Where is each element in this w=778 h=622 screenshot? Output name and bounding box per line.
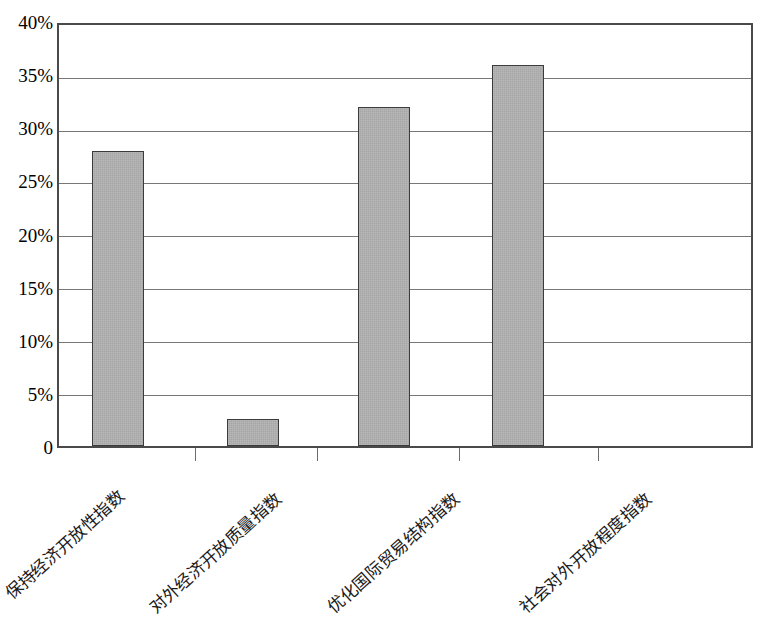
x-axis-tick-mark — [459, 448, 460, 461]
y-axis-tick-label: 30% — [1, 119, 53, 138]
plot-area — [57, 23, 753, 448]
x-axis-tick-mark — [195, 448, 196, 461]
x-axis-category-label: 优化国际贸易结构指数 — [323, 489, 463, 618]
y-axis-tick-label: 35% — [1, 66, 53, 85]
bar[interactable] — [492, 65, 544, 446]
bar[interactable] — [92, 151, 144, 446]
y-axis-tick-label: 15% — [1, 279, 53, 298]
y-axis-tick-label: 40% — [1, 13, 53, 32]
y-axis-tick-label: 25% — [1, 172, 53, 191]
y-axis-tick-label: 5% — [1, 385, 53, 404]
bar-chart: 40% 35% 30% 25% 20% 15% 10% 5% 0 保持经济开放性… — [0, 0, 778, 622]
gridline — [59, 78, 751, 79]
x-axis-category-label: 社会对外开放程度指数 — [515, 489, 655, 618]
x-axis-category-label: 对外经济开放质量指数 — [145, 489, 285, 618]
y-axis-labels: 40% 35% 30% 25% 20% 15% 10% 5% 0 — [0, 0, 53, 622]
x-axis-tick-mark — [598, 448, 599, 461]
bar[interactable] — [358, 107, 410, 446]
bar[interactable] — [227, 419, 279, 446]
y-axis-tick-label: 10% — [1, 332, 53, 351]
y-axis-tick-label: 20% — [1, 226, 53, 245]
y-axis-tick-label: 0 — [1, 438, 53, 457]
x-axis-tick-mark — [317, 448, 318, 461]
